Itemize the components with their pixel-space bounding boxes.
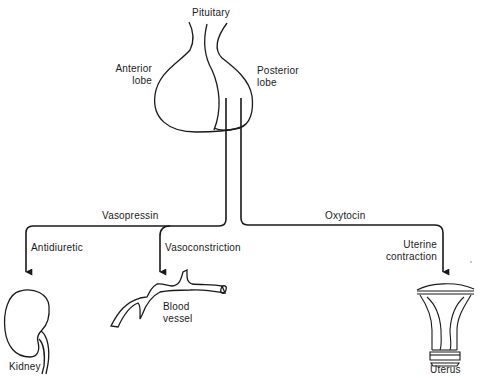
posterior-lobe-label-line2: lobe bbox=[257, 77, 277, 89]
antidiuretic-label: Antidiuretic bbox=[31, 242, 83, 254]
vasopressin-label: Vasopressin bbox=[102, 210, 159, 222]
anterior-lobe-label-line1: Anterior bbox=[104, 63, 152, 75]
diagram-canvas bbox=[0, 0, 483, 380]
posterior-lobe-label-line1: Posterior bbox=[257, 65, 299, 77]
kidney-label: Kidney bbox=[9, 361, 41, 373]
blood-vessel-label-line1: Blood bbox=[163, 301, 190, 313]
pituitary-label: Pituitary bbox=[186, 7, 236, 19]
anterior-lobe-label-line2: lobe bbox=[104, 75, 152, 87]
uterine-contraction-label-line1: Uterine bbox=[380, 239, 437, 251]
blood-vessel-label-line2: vessel bbox=[163, 313, 193, 325]
uterine-contraction-label-line2: contraction bbox=[380, 251, 437, 263]
vasoconstriction-label: Vasoconstriction bbox=[165, 242, 241, 254]
uterus-label: Uterus bbox=[430, 364, 461, 376]
speck-dot bbox=[470, 261, 472, 263]
oxytocin-label: Oxytocin bbox=[325, 210, 366, 222]
pituitary-gland-icon bbox=[155, 22, 253, 132]
uterus-icon bbox=[417, 284, 474, 366]
